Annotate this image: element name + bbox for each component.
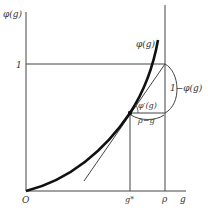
y-axis-label: φ(g) — [3, 9, 23, 19]
x-axis-label: g — [180, 194, 186, 204]
phi-diagram: φ(g) 1 φ(g) φ′(g) 1−φ(g) ρ−g O g* ρ g — [0, 0, 208, 211]
y-tick-one: 1 — [16, 60, 22, 70]
tangent-point — [128, 111, 132, 115]
slope-label: φ′(g) — [138, 101, 157, 110]
curve-label: φ(g) — [136, 39, 156, 49]
origin-label: O — [22, 195, 30, 205]
rho-minus-g-label: ρ−g — [137, 116, 155, 125]
x-tick-rho: ρ — [161, 194, 168, 204]
x-tick-gstar: g* — [125, 195, 134, 204]
one-minus-phi-label: 1−φ(g) — [170, 83, 203, 93]
